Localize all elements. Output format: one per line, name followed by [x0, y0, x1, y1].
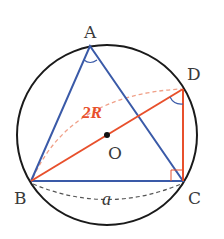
label-o: O: [108, 143, 122, 163]
label-b: B: [14, 188, 27, 208]
label-c: C: [188, 188, 201, 208]
label-side-a: a: [102, 189, 111, 209]
triangle-abc: [31, 46, 183, 181]
label-a: A: [83, 22, 97, 42]
center-point-o: [104, 132, 110, 138]
circumcircle-diagram: A D B C O 2R a: [0, 0, 224, 239]
label-2r: 2R: [81, 103, 102, 122]
angle-arc-a: [84, 60, 97, 63]
angle-arc-d: [170, 97, 183, 104]
label-d: D: [187, 64, 201, 84]
